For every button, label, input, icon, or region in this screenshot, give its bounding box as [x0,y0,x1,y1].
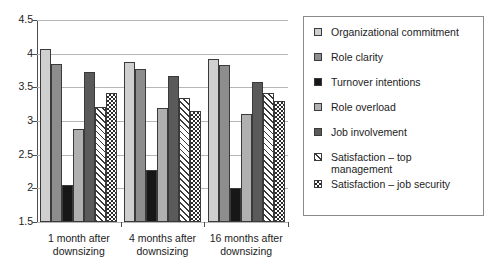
bar [62,185,73,222]
bar [84,72,95,222]
legend-label: Satisfaction – job security [331,178,450,190]
y-axis-tick-label: 2.5 [3,149,33,160]
legend-label: Satisfaction – top management [331,151,412,175]
y-axis-tick-labels: 4.543.532.521.5 [0,0,33,269]
bar-group [208,20,285,222]
y-axis-tick-label: 3 [3,115,33,126]
legend-swatch-icon [314,28,322,36]
y-axis-tick-mark [32,87,37,88]
x-axis-tick-mark [204,222,205,227]
legend-swatch-icon [314,128,322,136]
legend-item[interactable]: Satisfaction – top management [314,151,483,175]
bar [208,59,219,222]
bar [51,64,62,222]
legend-label: Turnover intentions [331,76,421,88]
bar [190,111,201,222]
chart-legend: Organizational commitmentRole clarityTur… [303,16,484,216]
bar [124,62,135,222]
legend-item[interactable]: Organizational commitment [314,26,483,38]
legend-swatch-icon [314,103,322,111]
bar [252,82,263,222]
legend-label: Role clarity [331,51,383,63]
bar [40,49,51,222]
legend-label: Job involvement [331,126,407,138]
legend-item[interactable]: Turnover intentions [314,76,483,88]
legend-label: Role overload [331,101,396,113]
gridline [37,222,288,223]
x-axis-tick-mark [121,222,122,227]
bar [219,65,230,222]
bar [168,76,179,222]
legend-item[interactable]: Satisfaction – job security [314,178,483,190]
y-axis-tick-mark [32,54,37,55]
bar [106,93,117,222]
x-axis-category-label: 16 months after downsizing [194,232,298,258]
y-axis-tick-label: 4.5 [3,14,33,25]
legend-swatch-icon [314,153,322,161]
bar [73,129,84,222]
legend-swatch-icon [314,180,322,188]
x-axis-tick-mark [288,222,289,227]
bar [146,170,157,222]
bar [95,107,106,222]
bar [135,69,146,222]
bar-chart-figure: 4.543.532.521.5 1 month after downsizing… [0,0,492,269]
legend-swatch-icon [314,53,322,61]
y-axis-tick-label: 1.5 [3,216,33,227]
y-axis-tick-label: 3.5 [3,81,33,92]
legend-item[interactable]: Job involvement [314,126,483,138]
bar-group [40,20,117,222]
legend-swatch-icon [314,78,322,86]
bar-group [124,20,201,222]
y-axis-tick-mark [32,20,37,21]
bar [263,93,274,222]
bar [179,98,190,222]
legend-label: Organizational commitment [331,26,459,38]
y-axis-tick-mark [32,222,37,223]
y-axis-tick-mark [32,188,37,189]
legend-item[interactable]: Role overload [314,101,483,113]
bar [157,108,168,222]
y-axis-tick-mark [32,155,37,156]
bar [241,114,252,222]
legend-item[interactable]: Role clarity [314,51,483,63]
bar [274,101,285,222]
y-axis-tick-label: 4 [3,48,33,59]
bar [230,188,241,222]
y-axis-tick-label: 2 [3,182,33,193]
y-axis-tick-mark [32,121,37,122]
plot-area [37,20,288,222]
